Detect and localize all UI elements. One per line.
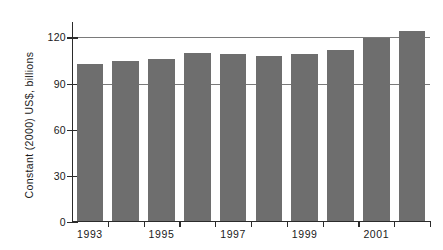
x-tick-mark xyxy=(358,221,359,227)
x-tick-mark xyxy=(323,221,324,227)
x-tick-mark xyxy=(215,221,216,227)
x-tick-mark xyxy=(179,221,180,227)
x-tick-mark xyxy=(251,221,252,227)
plot-area: 0306090120 xyxy=(72,22,430,222)
y-tick-mark xyxy=(67,222,78,223)
y-tick-label: 120 xyxy=(48,31,66,43)
y-tick-label: 60 xyxy=(54,124,66,136)
x-axis-label-1999: 1999 xyxy=(292,228,318,240)
bar-chart: Constant (2000) US$, billions 0306090120… xyxy=(0,0,443,250)
bar-2001 xyxy=(363,38,389,221)
bar-1995 xyxy=(148,59,174,221)
bar-1997 xyxy=(220,54,246,220)
bar-1994 xyxy=(112,61,138,221)
y-tick-label: 30 xyxy=(54,170,66,182)
bar-1996 xyxy=(184,53,210,221)
x-tick-mark xyxy=(430,221,431,227)
bar-1993 xyxy=(77,64,103,221)
bar-1998 xyxy=(256,56,282,221)
bar-2002 xyxy=(399,31,425,220)
y-tick-label: 0 xyxy=(60,216,66,228)
x-tick-mark xyxy=(108,221,109,227)
bar-2000 xyxy=(327,50,353,221)
x-axis-label-1993: 1993 xyxy=(77,228,103,240)
x-tick-mark xyxy=(287,221,288,227)
x-axis-label-1995: 1995 xyxy=(149,228,175,240)
bar-1999 xyxy=(291,54,317,220)
x-axis-label-2001: 2001 xyxy=(363,228,389,240)
y-axis-title: Constant (2000) US$, billions xyxy=(14,0,44,250)
y-tick-mark xyxy=(67,37,78,38)
y-axis-line xyxy=(72,22,73,222)
x-tick-mark xyxy=(394,221,395,227)
x-tick-mark xyxy=(144,221,145,227)
y-tick-label: 90 xyxy=(54,78,66,90)
x-axis-label-1997: 1997 xyxy=(220,228,246,240)
